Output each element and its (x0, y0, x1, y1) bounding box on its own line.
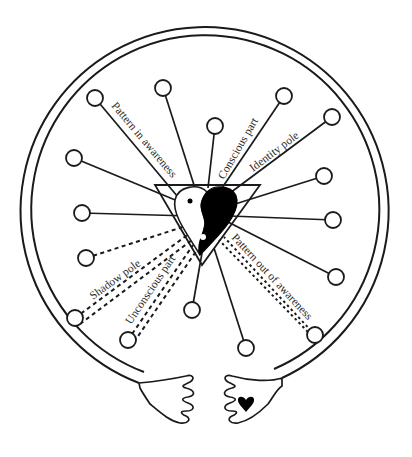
yin-dot (188, 199, 193, 204)
node-15 (307, 327, 323, 343)
right-hand-icon (224, 375, 282, 423)
node-7 (316, 168, 332, 184)
spoke-10 (86, 226, 186, 258)
node-16 (238, 340, 254, 356)
node-6 (324, 109, 340, 125)
yang-dot (200, 234, 206, 240)
node-9 (325, 212, 341, 228)
node-5 (276, 88, 292, 104)
node-1 (87, 90, 103, 106)
node-11 (328, 269, 344, 285)
self-diagram: Pattern in awareness Conscious part Iden… (0, 0, 412, 457)
spoke-3 (208, 126, 215, 188)
left-hand-icon (139, 375, 194, 423)
node-13 (184, 302, 200, 318)
node-12 (67, 310, 83, 326)
spoke-14 (128, 245, 193, 340)
spoke-15b (219, 240, 308, 332)
node-2 (155, 80, 171, 96)
node-4 (66, 150, 82, 166)
label-shadow-pole: Shadow pole (87, 257, 143, 303)
node-3 (207, 118, 223, 134)
node-14 (120, 332, 136, 348)
label-pattern-in-awareness: Pattern in awareness (109, 100, 179, 181)
spoke-9 (230, 216, 333, 220)
spoke-16 (214, 248, 246, 348)
spoke-1 (95, 98, 183, 203)
label-identity-pole: Identity pole (247, 129, 302, 175)
node-10 (78, 250, 94, 266)
node-8 (74, 205, 90, 221)
